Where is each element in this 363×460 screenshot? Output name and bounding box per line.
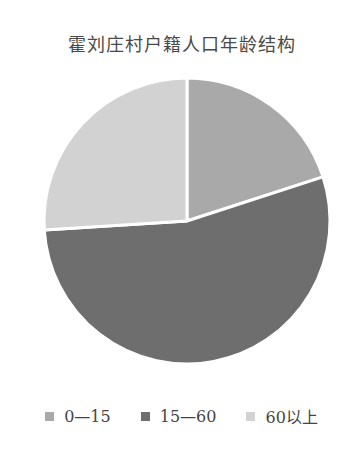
legend-swatch bbox=[246, 412, 255, 421]
pie-slice-60以上 bbox=[44, 78, 187, 230]
legend-label: 15—60 bbox=[160, 407, 217, 426]
pie-chart bbox=[0, 0, 363, 460]
legend-swatch bbox=[141, 412, 150, 421]
legend-item-15-60: 15—60 bbox=[141, 404, 217, 428]
legend-label: 60以上 bbox=[265, 404, 317, 428]
legend-item-0-15: 0—15 bbox=[45, 404, 111, 428]
legend-item-60-plus: 60以上 bbox=[246, 404, 317, 428]
legend: 0—15 15—60 60以上 bbox=[0, 404, 363, 428]
legend-swatch bbox=[45, 412, 54, 421]
legend-label: 0—15 bbox=[64, 407, 111, 426]
